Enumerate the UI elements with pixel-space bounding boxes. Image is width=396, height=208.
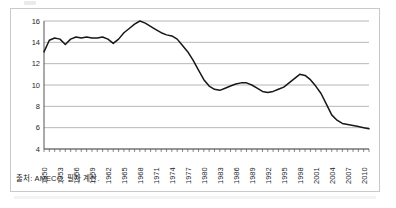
figure-frame: 46810121416 1950195319561959196219651968… bbox=[10, 8, 380, 192]
x-tick-label: 1995 bbox=[280, 167, 289, 184]
x-tick-label: 1989 bbox=[248, 167, 257, 184]
x-tick-label: 1965 bbox=[120, 167, 129, 184]
x-tick-label: 1980 bbox=[200, 167, 209, 184]
x-tick-label: 2004 bbox=[328, 167, 337, 184]
x-tick-label: 2010 bbox=[360, 167, 369, 184]
scan-artifact-top bbox=[24, 1, 36, 5]
y-tick-label: 8 bbox=[36, 102, 40, 111]
y-tick-label: 16 bbox=[32, 17, 40, 26]
x-tick-label: 1998 bbox=[296, 167, 305, 184]
y-axis-tick-labels: 46810121416 bbox=[32, 17, 40, 154]
x-tick-label: 1983 bbox=[216, 167, 225, 184]
x-tick-label: 1968 bbox=[136, 167, 145, 184]
x-tick-label: 2007 bbox=[344, 167, 353, 184]
x-tick-label: 1974 bbox=[168, 167, 177, 184]
x-tick-label: 1977 bbox=[184, 167, 193, 184]
x-tick-label: 1962 bbox=[104, 167, 113, 184]
scan-artifact-bottom bbox=[14, 196, 376, 199]
line-chart: 46810121416 bbox=[11, 9, 381, 159]
x-tick-label: 1992 bbox=[264, 167, 273, 184]
plot-area: 46810121416 1950195319561959196219651968… bbox=[11, 9, 381, 159]
gridlines-group bbox=[44, 21, 369, 149]
y-tick-label: 4 bbox=[36, 145, 40, 154]
x-tick-label: 2001 bbox=[312, 167, 321, 184]
y-tick-label: 6 bbox=[36, 123, 40, 132]
x-tick-label: 1986 bbox=[232, 167, 241, 184]
source-note: 출처: AMECO. 필자 계산. bbox=[16, 172, 100, 183]
data-series-line bbox=[44, 21, 369, 129]
x-tick-label: 1971 bbox=[152, 167, 161, 184]
y-tick-label: 14 bbox=[32, 38, 40, 47]
y-tick-label: 10 bbox=[32, 81, 40, 90]
y-tick-label: 12 bbox=[32, 59, 40, 68]
